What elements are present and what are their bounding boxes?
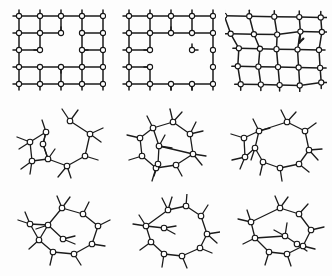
atom-node [58,30,63,35]
atom-node [43,129,49,135]
atom-node [100,13,105,18]
atom-node [275,64,280,69]
atom-node [260,159,266,165]
atom-node [36,237,42,243]
atom-node [27,139,33,145]
atom-node [45,222,51,228]
atom-node [294,241,300,247]
atom-node [189,81,194,86]
atom-node [275,32,280,37]
atom-node [296,161,302,167]
atom-node [210,81,215,86]
bond [251,208,280,222]
atom-node [126,13,131,18]
atom-node [100,81,105,86]
atom-node [198,213,204,219]
atom-node [168,13,173,18]
atom-node [210,13,215,18]
atom-node [197,245,203,251]
atom-node [37,13,42,18]
atom-node [150,125,156,131]
panel-amorphous-ring-cluster-b [118,104,220,186]
atom-node [318,15,323,20]
atom-node [277,205,283,211]
atom-node [170,119,176,125]
atom-node [16,81,21,86]
atom-node [165,207,171,213]
bond [70,121,90,134]
atom-node [272,14,277,19]
atom-node [100,30,105,35]
atom-node [27,221,33,227]
amorphous-ring-cluster-a-diagram [8,104,110,186]
atom-node [79,30,84,35]
atom-node [58,81,63,86]
atom-node [126,30,131,35]
atom-node [126,64,131,69]
atom-node [37,47,42,52]
atom-node [189,47,194,52]
atom-node [187,131,193,137]
atom-node [225,13,227,18]
atom-node [79,13,84,18]
atom-node [59,205,65,211]
atom-node [79,47,84,52]
atom-node [284,119,290,125]
atom-node [210,64,215,69]
atom-node [238,82,243,87]
atom-node [302,128,308,134]
atom-node [189,30,194,35]
atom-node [155,161,161,167]
atom-node [100,47,105,52]
atom-node [252,235,258,241]
atom-node [126,81,131,86]
atom-node [258,82,263,87]
atom-node [257,46,262,51]
panel-amorphous-ring-cluster-f [225,194,327,272]
crystalline-lattice-void-diagram [118,6,216,92]
atom-node [241,135,247,141]
atom-node [316,47,321,52]
atom-node [319,80,324,85]
atom-node [137,135,143,141]
amorphous-ring-cluster-f-diagram [225,194,327,272]
atom-node [71,251,77,257]
atom-node [204,231,210,237]
atom-node [306,147,312,153]
bond [85,134,90,156]
atom-node [156,143,162,149]
atom-node [60,236,66,242]
atom-node [295,47,300,52]
atomic-network-figure [0,0,332,276]
atom-node [87,131,93,137]
atom-node [190,151,196,157]
atom-node [37,81,42,86]
distorted-lattice-dislocation-diagram [225,6,327,92]
atom-node [308,227,314,233]
atom-node [16,47,21,52]
atom-node [235,64,240,69]
atom-node [148,239,154,245]
atom-node [247,14,252,19]
atom-node [67,118,73,124]
atom-node [147,47,152,52]
crystalline-lattice-vacancy-diagram [8,6,106,92]
atom-node [147,81,152,86]
atom-node [318,65,323,70]
amorphous-ring-cluster-c-diagram [225,104,327,186]
panel-distorted-lattice-dislocation [225,6,327,92]
panel-amorphous-ring-cluster-c [225,104,327,186]
atom-node [16,64,21,69]
atom-node [50,249,56,255]
atom-node [147,64,152,69]
atom-node [284,251,290,257]
panel-crystalline-lattice-vacancy [8,6,106,92]
atom-node [252,145,258,151]
atom-node [64,163,70,169]
atom-node [100,64,105,69]
atom-node [161,251,167,257]
atom-node [228,31,233,36]
atom-node [126,47,131,52]
atom-node [29,158,35,164]
atom-node [89,241,95,247]
